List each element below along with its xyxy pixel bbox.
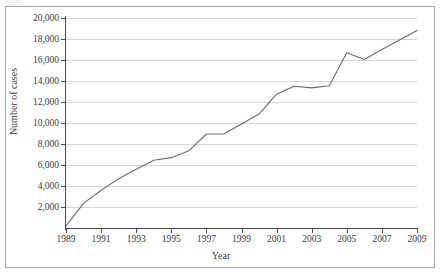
x-axis-title: Year	[0, 250, 442, 261]
x-axis-tick	[171, 229, 172, 233]
x-axis-tick	[206, 229, 207, 233]
x-axis-tick	[312, 229, 313, 233]
series-line-number-of-cases	[66, 31, 417, 226]
y-axis-tick	[61, 186, 65, 187]
y-axis-tick	[61, 123, 65, 124]
x-axis-tick-label: 1989	[57, 234, 76, 245]
x-axis-tick-label: 1995	[162, 234, 181, 245]
y-axis-tick	[61, 81, 65, 82]
x-axis-tick	[66, 229, 67, 233]
x-axis-tick	[101, 229, 102, 233]
y-axis-tick	[61, 60, 65, 61]
y-axis-tick	[61, 39, 65, 40]
y-axis-tick	[61, 207, 65, 208]
chart-figure: 2,0004,0006,0008,00010,00012,00014,00016…	[0, 0, 442, 276]
x-axis-tick-label: 2005	[337, 234, 356, 245]
x-axis-tick	[347, 229, 348, 233]
x-axis-tick-label: 2001	[267, 234, 286, 245]
y-axis-tick	[61, 18, 65, 19]
x-axis-tick	[382, 229, 383, 233]
x-axis-tick-label: 2003	[302, 234, 321, 245]
y-axis-tick	[61, 102, 65, 103]
y-axis-tick	[61, 165, 65, 166]
x-axis-tick-label: 1999	[232, 234, 251, 245]
x-axis-tick	[277, 229, 278, 233]
x-axis-tick-label: 1991	[92, 234, 111, 245]
y-axis-title: Number of cases	[8, 27, 19, 177]
x-axis-tick-label: 1997	[197, 234, 216, 245]
y-axis-tick	[61, 144, 65, 145]
x-axis-tick	[417, 229, 418, 233]
x-axis-tick-label: 1993	[127, 234, 146, 245]
x-axis-tick	[136, 229, 137, 233]
x-axis-tick	[242, 229, 243, 233]
x-axis-tick-label: 2009	[408, 234, 427, 245]
x-axis-tick-label: 2007	[372, 234, 391, 245]
